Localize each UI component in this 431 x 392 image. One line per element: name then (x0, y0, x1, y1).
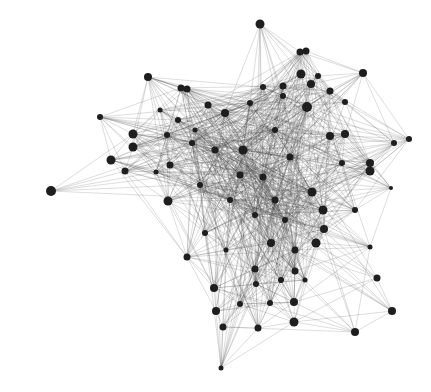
graph-node (227, 197, 233, 203)
graph-node (359, 69, 367, 77)
graph-node (184, 254, 191, 261)
graph-node (210, 284, 218, 292)
graph-node (303, 48, 310, 55)
graph-node (46, 186, 56, 196)
graph-node (255, 325, 262, 332)
graph-node (247, 100, 253, 106)
graph-node (260, 84, 266, 90)
graph-node (237, 172, 244, 179)
graph-node (267, 239, 275, 247)
graph-node (193, 128, 198, 133)
network-graph (0, 0, 431, 392)
graph-node (164, 197, 173, 206)
graph-node (287, 154, 294, 161)
graph-node (184, 86, 191, 93)
graph-node (158, 108, 163, 113)
graph-node (366, 167, 375, 176)
graph-node (224, 248, 229, 253)
graph-node (297, 49, 304, 56)
graph-node (154, 170, 159, 175)
graph-node (292, 268, 299, 275)
graph-node (302, 102, 312, 112)
graph-node (374, 275, 381, 282)
graph-node (239, 146, 248, 155)
graph-node (342, 99, 348, 105)
graph-node (178, 85, 185, 92)
graph-node (297, 70, 306, 79)
graph-node (280, 93, 286, 99)
graph-node (352, 207, 358, 213)
graph-node (237, 301, 243, 307)
graph-node (189, 140, 195, 146)
graph-node (197, 182, 203, 188)
graph-node (252, 212, 258, 218)
graph-node (97, 114, 103, 120)
graph-node (175, 117, 181, 123)
graph-node (212, 147, 219, 154)
graph-node (366, 159, 374, 167)
graph-node (212, 307, 220, 315)
graph-node (292, 247, 299, 254)
graph-node (144, 73, 152, 81)
graph-node (351, 328, 359, 336)
graph-node (320, 225, 328, 233)
graph-node (341, 130, 349, 138)
graph-node (368, 245, 373, 250)
graph-node (327, 88, 334, 95)
graph-node (267, 300, 273, 306)
graph-node (253, 281, 259, 287)
graph-node (260, 174, 267, 181)
graph-node (290, 318, 299, 327)
graph-node (406, 136, 412, 142)
graph-node (315, 73, 321, 79)
graph-node (308, 188, 317, 197)
graph-node (339, 160, 345, 166)
graph-node (221, 109, 229, 117)
graph-node (278, 277, 284, 283)
graph-node (388, 307, 396, 315)
graph-node (303, 278, 308, 283)
graph-node (129, 130, 138, 139)
graph-node (290, 298, 298, 306)
graph-node (107, 156, 116, 165)
graph-node (282, 217, 288, 223)
graph-node (256, 20, 265, 29)
graph-node (389, 186, 393, 190)
graph-node (391, 140, 397, 146)
graph-node (220, 324, 227, 331)
graph-node (272, 127, 278, 133)
graph-node (202, 230, 208, 236)
graph-node (205, 102, 212, 109)
graph-node (129, 143, 138, 152)
graph-node (252, 266, 259, 273)
graph-node (280, 83, 287, 90)
graph-node (326, 132, 334, 140)
graph-node (312, 239, 321, 248)
graph-node (167, 162, 174, 169)
graph-node (164, 132, 170, 138)
graph-node (319, 206, 328, 215)
graph-node (219, 366, 224, 371)
graph-node (272, 197, 279, 204)
graph-node (307, 80, 315, 88)
graph-node (122, 168, 129, 175)
